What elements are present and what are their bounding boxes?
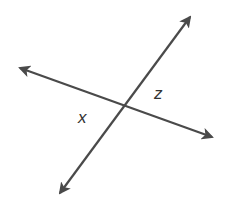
angle-label-z: z	[154, 85, 163, 102]
intersecting-lines-figure	[0, 0, 231, 197]
angle-label-x: x	[78, 109, 87, 126]
shallow-line	[20, 68, 212, 137]
diagram-canvas: z x	[0, 0, 231, 197]
